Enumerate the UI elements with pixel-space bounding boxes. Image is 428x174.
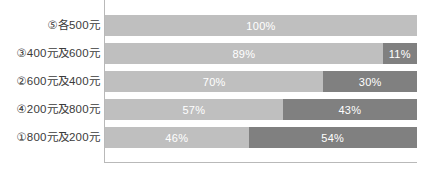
bar-segment-primary[interactable]: 100% [105,15,417,36]
bar-segment-primary[interactable]: 57% [105,99,283,120]
stacked-bar[interactable]: 89% 11% [105,43,417,64]
chart-row: ③400元及600元 89% 11% [0,43,428,64]
bar-segment-secondary[interactable]: 30% [323,71,417,92]
stacked-bar[interactable]: 46% 54% [105,127,417,148]
row-label: ③400元及600元 [0,43,100,64]
bar-segment-secondary[interactable]: 11% [383,43,417,64]
stacked-bar[interactable]: 100% [105,15,417,36]
stacked-bar[interactable]: 57% 43% [105,99,417,120]
chart-row: ①800元及200元 46% 54% [0,127,428,148]
chart-row: ⑤各500元 100% [0,15,428,36]
chart-row: ④200元及800元 57% 43% [0,99,428,120]
stacked-bar-chart: ⑤各500元 100% ③400元及600元 89% 11% ②600元及400… [0,0,428,174]
chart-row: ②600元及400元 70% 30% [0,71,428,92]
bar-segment-primary[interactable]: 70% [105,71,323,92]
bar-segment-primary[interactable]: 89% [105,43,383,64]
bar-segment-secondary[interactable]: 43% [283,99,417,120]
stacked-bar[interactable]: 70% 30% [105,71,417,92]
row-label: ④200元及800元 [0,99,100,120]
bar-rows: ⑤各500元 100% ③400元及600元 89% 11% ②600元及400… [0,0,428,163]
bar-segment-primary[interactable]: 46% [105,127,249,148]
row-label: ①800元及200元 [0,127,100,148]
row-label: ②600元及400元 [0,71,100,92]
row-label: ⑤各500元 [0,15,100,36]
bar-segment-secondary[interactable]: 54% [249,127,417,148]
